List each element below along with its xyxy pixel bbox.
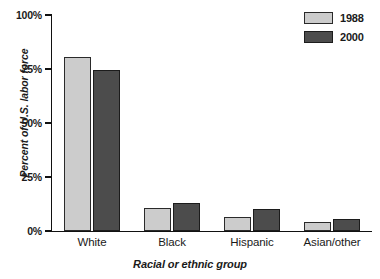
bar-asian-other-2000 — [333, 219, 361, 231]
x-axis-line — [51, 231, 372, 232]
bar-black-1988 — [144, 208, 172, 231]
x-axis-label-white: White — [78, 236, 107, 248]
bar-hispanic-1988 — [224, 217, 252, 231]
x-axis-label-black: Black — [158, 236, 186, 248]
y-axis-tick — [45, 14, 52, 15]
bar-black-2000 — [173, 203, 201, 231]
bar-white-2000 — [93, 70, 121, 231]
x-axis-title: Racial or ethnic group — [0, 258, 380, 270]
y-axis-tick — [45, 176, 52, 177]
y-axis-tick-label: 25% — [0, 171, 42, 183]
legend-label-2000: 2000 — [340, 31, 364, 43]
legend-item-2000: 2000 — [304, 30, 364, 44]
y-axis-tick — [45, 68, 52, 69]
x-axis-label-asian-other: Asian/other — [303, 236, 360, 248]
chart-legend: 19882000 — [304, 11, 364, 49]
legend-swatch-1988 — [304, 12, 333, 24]
bar-white-1988 — [64, 57, 92, 231]
bar-asian-other-1988 — [304, 222, 332, 231]
legend-label-1988: 1988 — [340, 12, 364, 24]
legend-item-1988: 1988 — [304, 11, 364, 25]
y-axis-tick-label: 0% — [0, 225, 42, 237]
x-axis-label-hispanic: Hispanic — [230, 236, 273, 248]
y-axis-tick-label: 50% — [0, 117, 42, 129]
y-axis-tick-label: 100% — [0, 9, 42, 21]
bar-hispanic-2000 — [253, 209, 281, 231]
legend-swatch-2000 — [304, 31, 333, 43]
y-axis-tick — [45, 122, 52, 123]
bar-chart: Percent of U.S. labor force 0%25%50%75%1… — [0, 0, 380, 279]
y-axis-tick — [45, 230, 52, 231]
y-axis-tick-label: 75% — [0, 63, 42, 75]
